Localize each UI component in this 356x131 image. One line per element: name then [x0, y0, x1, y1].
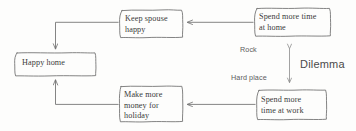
edge-make-more-money-to-happy-home: [56, 80, 119, 104]
annotation-label-hard-place: Hard place: [231, 73, 267, 82]
annotation-label-rock: Rock: [240, 45, 257, 54]
node-label-spend-more-time-at-work: Spend more time at work: [261, 95, 325, 116]
annotation-label-dilemma: Dilemma: [300, 58, 345, 70]
node-label-spend-more-time-at-home: Spend more time at home: [259, 12, 329, 33]
node-label-happy-home: Happy home: [22, 58, 94, 69]
node-label-make-more-money-for-holiday: Make more money for holiday: [124, 90, 180, 122]
diagram-canvas: Keep spouse happy Spend more time at hom…: [0, 0, 356, 131]
edge-keep-spouse-happy-to-happy-home: [56, 22, 119, 49]
node-label-keep-spouse-happy: Keep spouse happy: [125, 14, 181, 35]
